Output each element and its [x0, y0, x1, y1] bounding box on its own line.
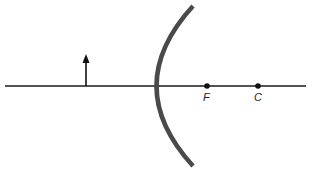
- focal-point-label: F: [203, 91, 211, 103]
- center-of-curvature-marker: [255, 83, 261, 89]
- focal-point-marker: [204, 83, 210, 89]
- concave-mirror-diagram: F C: [0, 0, 309, 170]
- object-arrow: [83, 54, 90, 86]
- center-of-curvature-label: C: [254, 91, 262, 103]
- arrowhead-icon: [83, 54, 90, 63]
